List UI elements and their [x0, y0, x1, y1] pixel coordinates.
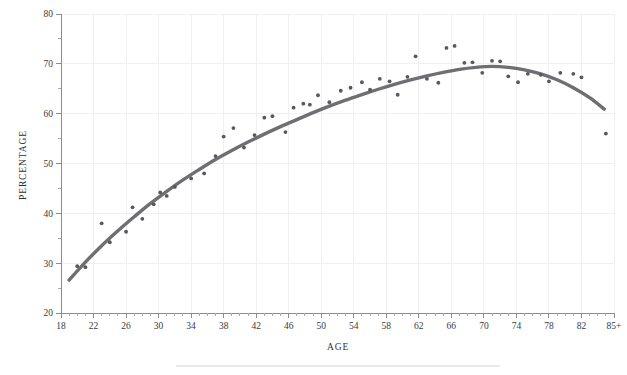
- x-tick-label: 22: [89, 321, 99, 331]
- data-point: [253, 133, 257, 137]
- data-point: [604, 132, 608, 136]
- y-tick-label: 50: [44, 159, 54, 169]
- data-point: [131, 205, 135, 209]
- data-point: [406, 75, 410, 79]
- x-tick-label: 78: [544, 321, 554, 331]
- data-point: [453, 44, 457, 48]
- data-point: [222, 135, 226, 139]
- data-point: [327, 100, 331, 104]
- data-point: [471, 60, 475, 64]
- data-point: [539, 73, 543, 77]
- data-point: [425, 77, 429, 81]
- data-point: [84, 265, 88, 269]
- data-point: [339, 89, 343, 93]
- data-point: [396, 93, 400, 97]
- data-point: [436, 81, 440, 85]
- data-point: [558, 71, 562, 75]
- x-axis-tick-labels: 182226303438424650545862667074788285+: [56, 321, 621, 331]
- data-point: [189, 177, 193, 181]
- y-axis: 20304050607080: [44, 9, 62, 318]
- data-points: [75, 44, 607, 269]
- data-point: [100, 221, 104, 225]
- x-tick-label: 18: [56, 321, 66, 331]
- y-tick-label: 70: [44, 59, 54, 69]
- chart-container: 20304050607080 1822263034384246505458626…: [0, 0, 627, 375]
- y-tick-label: 80: [44, 9, 54, 19]
- data-point: [349, 86, 353, 90]
- x-tick-label: 46: [284, 321, 294, 331]
- x-tick-label: 70: [479, 321, 489, 331]
- data-point: [480, 71, 484, 75]
- data-point: [152, 202, 156, 206]
- y-axis-title: PERCENTAGE: [18, 130, 28, 200]
- x-axis-ticks: [61, 313, 614, 318]
- data-point: [292, 106, 296, 110]
- data-point: [214, 154, 218, 158]
- data-point: [262, 116, 266, 120]
- data-point: [378, 77, 382, 81]
- data-point: [316, 93, 320, 97]
- gridlines: [61, 14, 614, 313]
- x-tick-label: 50: [316, 321, 326, 331]
- data-point: [271, 114, 275, 118]
- x-tick-label: 54: [349, 321, 359, 331]
- x-tick-label: 58: [382, 321, 392, 331]
- y-axis-tick-labels: 20304050607080: [44, 9, 54, 318]
- data-point: [75, 264, 79, 268]
- x-tick-label: 85+: [607, 321, 622, 331]
- data-point: [158, 191, 162, 195]
- data-point: [498, 59, 502, 63]
- y-tick-label: 40: [44, 209, 54, 219]
- scatter-chart: 20304050607080 1822263034384246505458626…: [0, 0, 627, 375]
- data-point: [360, 80, 364, 84]
- data-point: [445, 46, 449, 50]
- data-point: [242, 146, 246, 150]
- data-point: [388, 79, 392, 83]
- y-tick-label: 60: [44, 109, 54, 119]
- data-point: [490, 59, 494, 63]
- data-point: [571, 72, 575, 76]
- x-tick-label: 38: [219, 321, 229, 331]
- x-tick-label: 82: [577, 321, 587, 331]
- data-point: [580, 75, 584, 79]
- data-point: [202, 172, 206, 176]
- data-point: [140, 217, 144, 221]
- data-point: [462, 61, 466, 65]
- data-point: [284, 130, 288, 134]
- fitted-trend-curve: [69, 66, 604, 280]
- data-point: [232, 126, 236, 130]
- x-tick-label: 30: [154, 321, 164, 331]
- y-tick-label: 20: [44, 308, 54, 318]
- data-point: [526, 72, 530, 76]
- x-tick-label: 74: [512, 321, 522, 331]
- x-axis-title: AGE: [327, 342, 349, 352]
- x-tick-label: 34: [186, 321, 196, 331]
- data-point: [301, 102, 305, 106]
- data-point: [516, 80, 520, 84]
- data-point: [368, 88, 372, 92]
- data-point: [124, 230, 128, 234]
- data-point: [414, 54, 418, 58]
- data-point: [108, 240, 112, 244]
- y-axis-ticks: [56, 14, 61, 313]
- data-point: [173, 185, 177, 189]
- data-point: [547, 79, 551, 83]
- x-tick-label: 66: [447, 321, 457, 331]
- x-tick-label: 62: [414, 321, 424, 331]
- x-tick-label: 26: [121, 321, 131, 331]
- data-point: [165, 194, 169, 198]
- x-tick-label: 42: [251, 321, 261, 331]
- y-tick-label: 30: [44, 259, 54, 269]
- data-point: [506, 74, 510, 78]
- data-point: [308, 103, 312, 107]
- x-axis: 182226303438424650545862667074788285+: [56, 313, 621, 331]
